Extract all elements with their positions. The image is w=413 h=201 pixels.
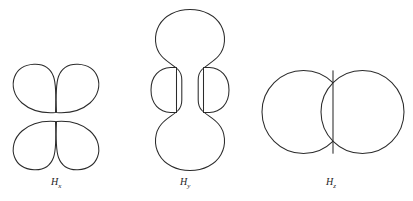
panel-hz-shape (262, 71, 404, 154)
hy-torus-right (204, 68, 230, 113)
hx-lobe-lower-right (56, 121, 99, 169)
caption-hx: Hx (51, 177, 61, 190)
caption-hx-subscript: x (58, 182, 61, 190)
caption-hz: Hz (326, 177, 336, 190)
caption-hy-subscript: y (187, 182, 190, 190)
orbital-diagram-svg (0, 0, 413, 201)
hx-lobe-upper-right (56, 64, 99, 112)
hy-torus-left (151, 68, 177, 113)
orbital-figure-root: Hx Hy Hz (0, 0, 413, 201)
panel-hy-shape (151, 10, 229, 171)
hx-lobe-lower-left (13, 121, 56, 169)
hx-lobe-upper-left (13, 64, 56, 112)
caption-hy: Hy (180, 177, 190, 190)
bottom-scan-artifact (150, 192, 300, 199)
panel-hx-shape (13, 64, 99, 169)
caption-hz-subscript: z (333, 182, 336, 190)
